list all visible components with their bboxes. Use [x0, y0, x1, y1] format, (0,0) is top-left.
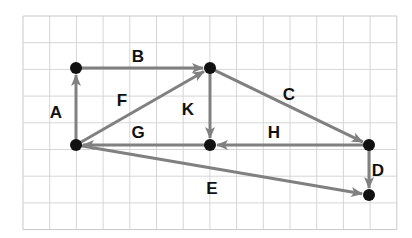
edges-layer — [76, 68, 369, 194]
edge-label-h: H — [268, 123, 280, 142]
edge-label-g: G — [131, 123, 144, 142]
diagram-canvas: ABFKCHGDE — [0, 0, 412, 238]
edge-label-e: E — [206, 179, 217, 198]
edge-label-k: K — [182, 100, 195, 119]
nodes-layer — [70, 62, 375, 201]
node-p1 — [70, 62, 82, 74]
edge-label-b: B — [132, 47, 144, 66]
node-p6 — [363, 189, 375, 201]
node-p4 — [204, 139, 216, 151]
edge-c — [212, 69, 363, 142]
graph-svg: ABFKCHGDE — [0, 0, 412, 238]
edge-label-f: F — [117, 91, 127, 110]
edge-label-d: D — [372, 161, 384, 180]
edge-label-c: C — [283, 85, 295, 104]
node-p3 — [70, 139, 82, 151]
node-p5 — [363, 139, 375, 151]
node-p2 — [204, 62, 216, 74]
edge-label-a: A — [50, 103, 62, 122]
edge-e — [78, 145, 362, 193]
